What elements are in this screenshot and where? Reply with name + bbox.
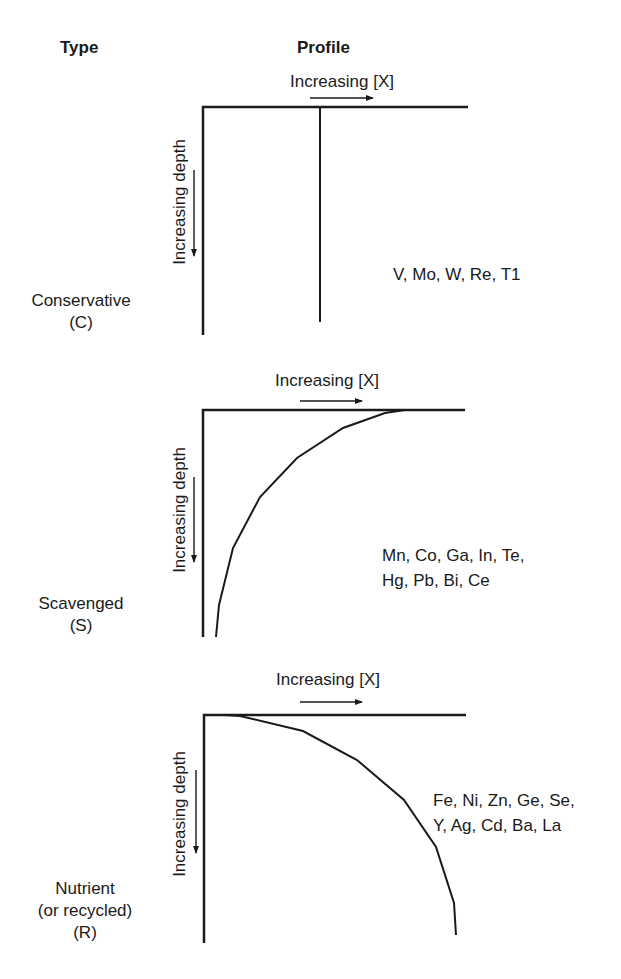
type-label-conservative: Conservative (C) <box>26 290 136 334</box>
elements-nutrient: Fe, Ni, Zn, Ge, Se, Y, Ag, Cd, Ba, La <box>433 788 575 838</box>
y-axis-label-scavenged: Increasing depth <box>170 443 190 577</box>
panel-conservative-graph <box>194 98 468 335</box>
type-label-scavenged: Scavenged (S) <box>26 593 136 637</box>
type-code: (C) <box>26 312 136 334</box>
profile-curve-scavenged <box>216 410 405 637</box>
type-name: Conservative <box>26 290 136 312</box>
x-axis-label-conservative: Increasing [X] <box>290 72 394 92</box>
axes-scavenged <box>203 410 465 637</box>
elements-conservative: V, Mo, W, Re, T1 <box>393 262 521 287</box>
type-name: Scavenged <box>26 593 136 615</box>
profile-curve-nutrient <box>225 715 456 935</box>
elements-line-1: Fe, Ni, Zn, Ge, Se, <box>433 788 575 813</box>
elements-scavenged: Mn, Co, Ga, In, Te, Hg, Pb, Bi, Ce <box>382 543 524 593</box>
panel-nutrient-graph <box>196 702 466 943</box>
type-name-qualifier: (or recycled) <box>20 900 150 922</box>
x-axis-label-nutrient: Increasing [X] <box>276 670 380 690</box>
elements-line-2: Hg, Pb, Bi, Ce <box>382 568 524 593</box>
type-name: Nutrient <box>20 878 150 900</box>
panel-scavenged-graph <box>194 401 465 637</box>
axes-conservative <box>203 107 468 335</box>
y-axis-label-conservative: Increasing depth <box>170 135 190 269</box>
elements-line-1: Mn, Co, Ga, In, Te, <box>382 543 524 568</box>
y-axis-label-nutrient: Increasing depth <box>170 747 190 881</box>
elements-line-2: Y, Ag, Cd, Ba, La <box>433 813 575 838</box>
elements-line-1: V, Mo, W, Re, T1 <box>393 262 521 287</box>
type-code: (S) <box>26 615 136 637</box>
type-code: (R) <box>20 922 150 944</box>
type-label-nutrient: Nutrient (or recycled) (R) <box>20 878 150 944</box>
x-axis-label-scavenged: Increasing [X] <box>275 371 379 391</box>
